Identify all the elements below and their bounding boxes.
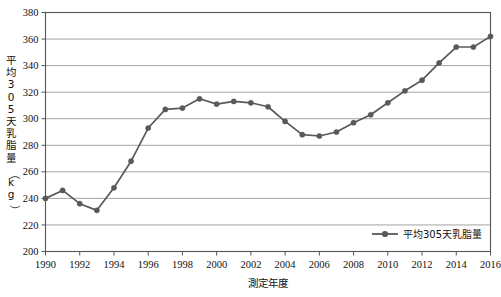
data-point [419,78,424,83]
data-point [146,125,151,130]
y-axis-title-char: 天 [6,115,17,127]
y-tick-label: 340 [23,60,39,71]
x-tick-label: 1992 [69,259,90,270]
x-axis-title: 測定年度 [248,277,289,289]
data-point [77,201,82,206]
data-point [60,188,65,193]
data-point [197,96,202,101]
legend-marker-icon [382,231,388,237]
data-point [471,44,476,49]
data-point [231,99,236,104]
data-point [385,100,390,105]
x-tick-label: 2014 [446,259,468,270]
data-point [180,106,185,111]
x-tick-label: 1998 [172,259,193,270]
line-chart: 200220240260280300320340360380 199019921… [0,0,501,297]
y-tick-label: 200 [23,246,39,257]
y-axis-title-char: 脂 [6,139,17,151]
data-point [111,185,116,190]
data-point [265,104,270,109]
y-tick-label: 300 [23,113,39,124]
data-point [317,133,322,138]
y-tick-label: 360 [23,34,39,45]
x-tick-label: 2002 [240,259,261,270]
legend-label: 平均305天乳脂量 [403,228,482,240]
y-tick-label: 260 [23,166,39,177]
x-tick-label: 2012 [412,259,433,270]
x-tick-label: 1996 [138,259,159,270]
x-tick-label: 2006 [309,259,330,270]
x-axis-title-text: 測定年度 [248,277,289,289]
x-tick-label: 2016 [480,259,501,270]
x-tick-label: 2004 [275,259,297,270]
data-point [334,129,339,134]
y-axis-title-char: ） [9,205,21,215]
y-axis-title-char: g [8,188,15,200]
y-axis-title-char: 平 [6,54,16,66]
x-tick-label: 2010 [377,259,398,270]
y-axis-title-char: 0 [8,91,15,103]
y-axis-title-char: 乳 [6,127,17,139]
data-point [300,132,305,137]
data-point [43,196,48,201]
data-point [94,208,99,213]
data-point [368,112,373,117]
y-tick-label: 380 [23,7,39,18]
data-point [128,159,133,164]
data-point [248,100,253,105]
data-point [402,88,407,93]
y-axis-title-char: 3 [8,78,15,90]
x-tick-label: 1990 [35,259,56,270]
data-point [351,120,356,125]
y-tick-label: 280 [23,140,39,151]
chart-container: 200220240260280300320340360380 199019921… [0,0,501,297]
data-point [454,44,459,49]
y-axis-title-char: 5 [8,103,15,115]
x-tick-label: 1994 [103,259,125,270]
data-point [214,102,219,107]
y-tick-label: 220 [23,220,39,231]
y-axis-title-char: 量 [6,152,17,164]
data-point [283,119,288,124]
data-point [163,107,168,112]
y-tick-label: 240 [23,193,39,204]
y-axis-title-char: 均 [6,66,16,78]
y-tick-label: 320 [23,87,39,98]
data-point [488,34,493,39]
x-tick-label: 2000 [206,259,227,270]
y-axis-title-char: k [8,176,15,188]
x-tick-label: 2008 [343,259,364,270]
data-point [437,60,442,65]
